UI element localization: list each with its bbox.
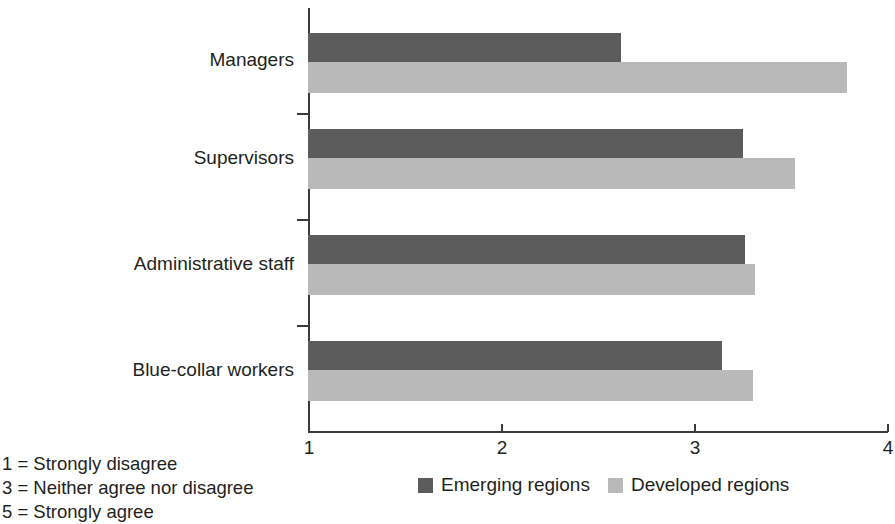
category-axis-tick [297,219,308,221]
scale-note-1: 1 = Strongly disagree [2,452,253,476]
legend-swatch-icon-emerging [418,478,433,493]
bar-blue-collar-workers-emerging [308,341,722,370]
bar-managers-emerging [308,33,621,62]
category-label-supervisors: Supervisors [0,147,294,169]
category-axis-tick [297,325,308,327]
bar-administrative-staff-developed [308,264,755,295]
bar-supervisors-emerging [308,129,743,158]
category-label-blue-collar-workers: Blue-collar workers [0,359,294,381]
legend-label-emerging-regions: Emerging regions [441,474,590,496]
category-label-administrative-staff: Administrative staff [0,253,294,275]
category-label-managers: Managers [0,49,294,71]
value-axis-label-2: 2 [497,437,508,459]
value-axis-label-3: 3 [690,437,701,459]
value-axis-label-1: 1 [304,437,315,459]
scale-notes: 1 = Strongly disagree 3 = Neither agree … [2,452,253,524]
bar-administrative-staff-emerging [308,235,745,264]
value-axis-label-4: 4 [883,437,894,459]
category-axis-tick [297,113,308,115]
legend-item-developed-regions: Developed regions [608,474,789,496]
legend-item-emerging-regions: Emerging regions [418,474,590,496]
bar-blue-collar-workers-developed [308,370,753,401]
bar-managers-developed [308,62,847,93]
bar-supervisors-developed [308,158,795,189]
chart-legend: Emerging regions Developed regions [418,474,789,496]
legend-swatch-icon-developed [608,478,623,493]
plot-area [308,8,888,432]
scale-note-2: 3 = Neither agree nor disagree [2,476,253,500]
legend-label-developed-regions: Developed regions [631,474,789,496]
scale-note-3: 5 = Strongly agree [2,500,253,524]
